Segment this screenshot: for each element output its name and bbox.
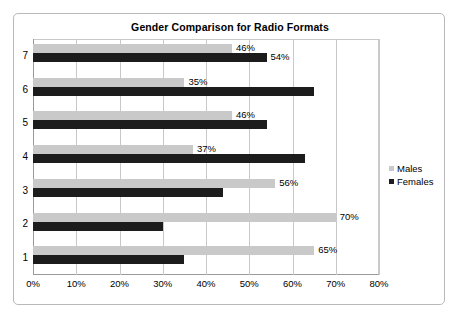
y-axis-tick-label: 1 xyxy=(13,252,28,263)
category-row: 746%54% xyxy=(14,39,444,73)
chart-legend: MalesFemales xyxy=(389,162,433,188)
bar-females xyxy=(33,120,267,129)
bar-label-males: 65% xyxy=(318,245,337,255)
bar-label-males: 35% xyxy=(188,77,207,87)
bar-females xyxy=(33,222,163,231)
bar-males xyxy=(33,78,184,87)
legend-swatch-icon xyxy=(389,166,394,171)
legend-entry[interactable]: Females xyxy=(389,175,433,188)
bar-label-females: 54% xyxy=(271,52,290,62)
bar-males xyxy=(33,179,275,188)
category-row: 165% xyxy=(14,241,444,275)
category-row: 635% xyxy=(14,73,444,107)
bar-females xyxy=(33,188,223,197)
x-axis-tick-label: 20% xyxy=(100,278,140,289)
bar-label-males: 56% xyxy=(279,178,298,188)
chart-title: Gender Comparison for Radio Formats xyxy=(14,21,445,33)
legend-entry[interactable]: Males xyxy=(389,162,433,175)
y-axis-tick-label: 7 xyxy=(13,50,28,61)
bar-females xyxy=(33,53,267,62)
y-axis-tick-label: 4 xyxy=(13,151,28,162)
bar-females xyxy=(33,255,184,264)
bar-label-males: 37% xyxy=(197,144,216,154)
y-axis-tick-label: 3 xyxy=(13,185,28,196)
x-axis-tick-label: 80% xyxy=(359,278,399,289)
y-axis-tick-label: 5 xyxy=(13,117,28,128)
x-axis-tick-label: 10% xyxy=(56,278,96,289)
bar-females xyxy=(33,154,305,163)
x-axis-tick-label: 0% xyxy=(13,278,53,289)
bar-females xyxy=(33,87,314,96)
category-row: 356% xyxy=(14,174,444,208)
legend-label: Females xyxy=(397,176,433,187)
bar-label-males: 70% xyxy=(340,212,359,222)
x-axis-tick-label: 30% xyxy=(143,278,183,289)
category-row: 270% xyxy=(14,208,444,242)
bar-label-males: 46% xyxy=(236,43,255,53)
bar-males xyxy=(33,246,314,255)
bar-males xyxy=(33,213,336,222)
bar-males xyxy=(33,111,232,120)
bar-label-males: 46% xyxy=(236,110,255,120)
x-axis-tick-label: 50% xyxy=(229,278,269,289)
y-axis-tick-label: 2 xyxy=(13,218,28,229)
bar-males xyxy=(33,44,232,53)
x-axis-tick-label: 40% xyxy=(186,278,226,289)
x-axis-tick-label: 60% xyxy=(273,278,313,289)
legend-swatch-icon xyxy=(389,179,394,184)
x-axis-tick-label: 70% xyxy=(316,278,356,289)
legend-label: Males xyxy=(397,163,422,174)
y-axis-tick-label: 6 xyxy=(13,84,28,95)
category-row: 437% xyxy=(14,140,444,174)
bar-males xyxy=(33,145,193,154)
category-row: 546% xyxy=(14,106,444,140)
chart-frame: Gender Comparison for Radio Formats 0%10… xyxy=(13,13,445,305)
